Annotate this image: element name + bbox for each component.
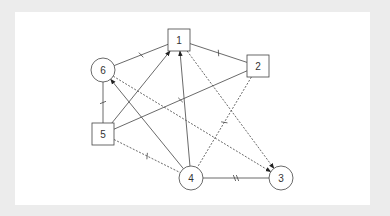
node-label: 4: [188, 173, 194, 184]
node-2: 2: [247, 55, 269, 77]
node-5: 5: [92, 123, 114, 145]
tick-mark: [147, 153, 148, 159]
node-6: 6: [91, 58, 115, 82]
graph-diagram: 123456: [0, 0, 390, 216]
edge-6-3: [113, 76, 270, 172]
node-label: 5: [100, 129, 106, 140]
edge-4-1: [180, 51, 190, 166]
edge-5-1: [112, 51, 170, 123]
tick-mark: [139, 53, 143, 58]
node-4: 4: [179, 166, 203, 190]
node-3: 3: [269, 166, 293, 190]
tick-mark: [221, 122, 227, 123]
node-label: 1: [176, 35, 182, 46]
node-1: 1: [168, 29, 190, 51]
tick-mark: [178, 98, 183, 103]
node-label: 6: [100, 65, 106, 76]
node-label: 3: [278, 173, 284, 184]
node-label: 2: [255, 61, 261, 72]
